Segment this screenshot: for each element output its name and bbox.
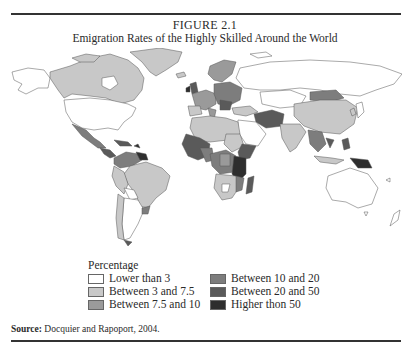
swatch-higher-than-50 — [210, 300, 226, 310]
region-india — [280, 124, 306, 152]
legend-label: Between 10 and 20 — [231, 272, 319, 285]
region-alaska — [12, 68, 50, 94]
swatch-10-20 — [210, 274, 226, 284]
top-rule — [11, 13, 401, 15]
legend-label: Lower than 3 — [109, 272, 170, 285]
legend-label: Between 20 and 50 — [231, 285, 319, 298]
region-png — [350, 158, 372, 168]
legend-item: Between 7.5 and 10 — [88, 298, 210, 311]
source-prefix: Source: — [11, 324, 42, 334]
legend-item: Lower than 3 — [88, 272, 210, 285]
region-madagascar — [246, 176, 254, 194]
figure-title: Emigration Rates of the Highly Skilled A… — [0, 32, 410, 44]
region-russia — [236, 60, 402, 96]
region-iberia — [188, 106, 202, 116]
region-australia — [326, 168, 378, 208]
source-text: Docquier and Rapoport, 2004. — [42, 324, 160, 334]
figure-label: FIGURE 2.1 — [0, 18, 410, 33]
region-canada — [50, 54, 144, 104]
region-scandinavia — [208, 60, 236, 82]
source-note: Source: Docquier and Rapoport, 2004. — [11, 324, 160, 334]
swatch-3-7-5 — [88, 287, 104, 297]
swatch-7-5-10 — [88, 300, 104, 310]
region-argentina — [122, 198, 144, 240]
swatch-lower-than-3 — [88, 274, 104, 284]
legend-item: Higher thon 50 — [210, 298, 360, 311]
legend-title: Percentage — [88, 259, 138, 271]
legend-label: Between 7.5 and 10 — [109, 298, 200, 311]
bottom-rule — [11, 340, 401, 342]
region-mozambique — [236, 176, 244, 192]
legend-item: Between 20 and 50 — [210, 285, 360, 298]
region-southeast-asia — [308, 130, 326, 152]
legend-item: Between 3 and 7.5 — [88, 285, 210, 298]
legend-item: Between 10 and 20 — [210, 272, 360, 285]
legend: Lower than 3 Between 10 and 20 Between 3… — [88, 272, 360, 311]
world-map — [10, 48, 402, 248]
swatch-20-50 — [210, 287, 226, 297]
legend-label: Higher thon 50 — [231, 298, 301, 311]
legend-label: Between 3 and 7.5 — [109, 285, 195, 298]
